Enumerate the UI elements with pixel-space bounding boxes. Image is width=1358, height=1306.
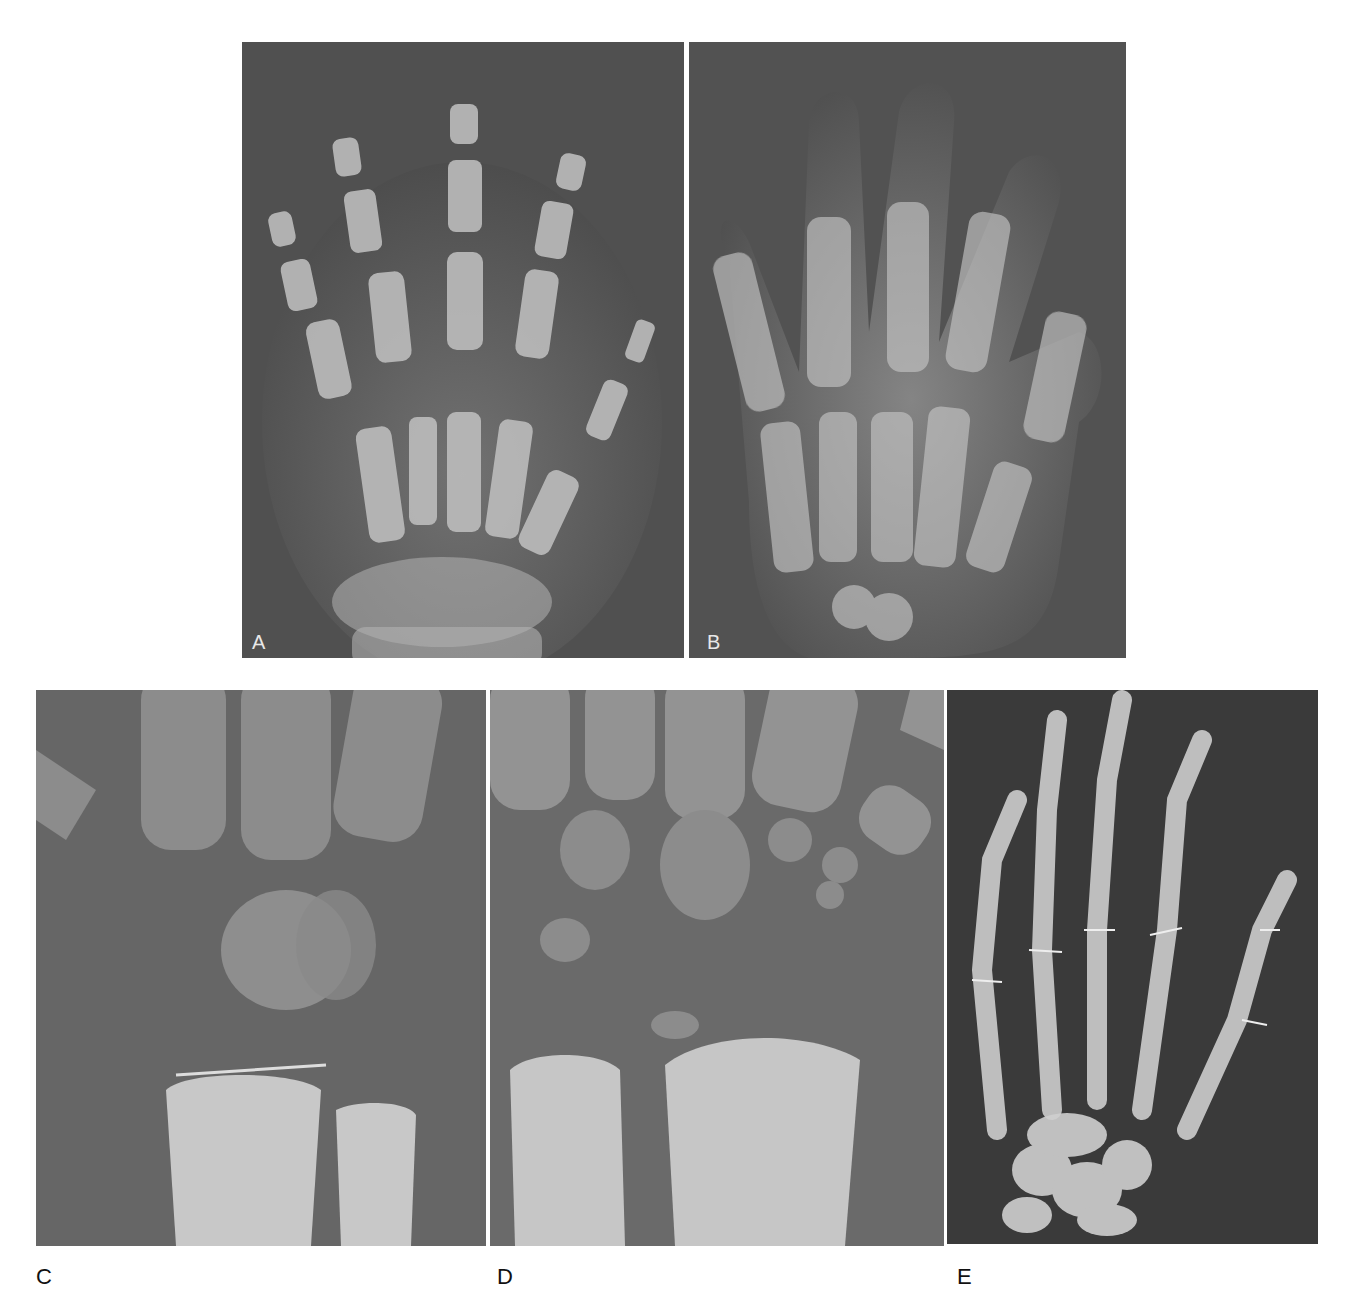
panel-label-d: D: [497, 1264, 513, 1290]
wrist-xray-c-image: [36, 690, 486, 1246]
xray-panel-d: [490, 690, 944, 1246]
wrist-xray-d-image: [490, 690, 944, 1246]
xray-panel-c: [36, 690, 486, 1246]
hand-xray-e-image: [947, 690, 1318, 1244]
xray-panel-e: [947, 690, 1318, 1244]
panel-label-a-inset: A: [252, 631, 265, 654]
xray-panel-b: B: [689, 42, 1126, 658]
panel-label-e: E: [957, 1264, 972, 1290]
panel-label-c: C: [36, 1264, 52, 1290]
panel-label-b-inset: B: [707, 631, 720, 654]
hand-xray-a-image: [242, 42, 684, 658]
xray-panel-a: A: [242, 42, 684, 658]
hand-xray-b-image: [689, 42, 1126, 658]
